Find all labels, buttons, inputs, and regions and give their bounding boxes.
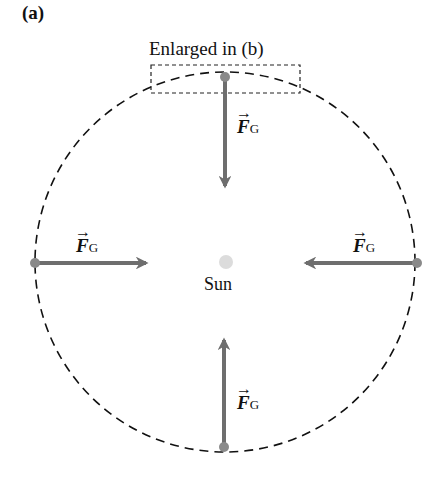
- panel-label: (a): [22, 2, 44, 24]
- vector-arrow-icon: →: [352, 223, 368, 241]
- inset-label: Enlarged in (b): [149, 38, 264, 60]
- force-label-right: →FG: [353, 235, 375, 257]
- vector-arrow-icon: →: [236, 380, 252, 398]
- planet-dot-top: [220, 72, 230, 82]
- sun-icon: [219, 255, 233, 269]
- vector-arrow-icon: →: [236, 104, 252, 122]
- force-subscript: G: [250, 397, 259, 412]
- planet-dot-right: [412, 258, 422, 268]
- force-label-bottom: →FG: [237, 392, 259, 414]
- planet-dot-left: [30, 258, 40, 268]
- force-label-left: →FG: [76, 235, 98, 257]
- force-subscript: G: [366, 240, 375, 255]
- vector-arrow-icon: →: [75, 223, 91, 241]
- force-label-top: →FG: [237, 116, 259, 138]
- diagram-canvas: [0, 0, 447, 488]
- sun-label: Sun: [204, 274, 232, 295]
- planet-dot-bottom: [219, 442, 229, 452]
- force-subscript: G: [250, 121, 259, 136]
- force-subscript: G: [89, 240, 98, 255]
